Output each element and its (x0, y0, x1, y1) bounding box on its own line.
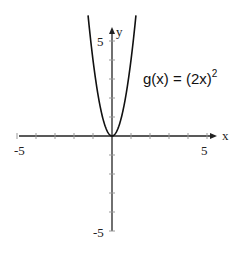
plot-area: x y -5 5 5 -5 g(x) = (2x)2 (0, 0, 239, 253)
graph: x y -5 5 5 -5 g(x) = (2x)2 (0, 0, 239, 253)
x-tick-label-max: 5 (201, 143, 208, 158)
y-tick-label-max: 5 (97, 34, 104, 49)
y-tick-label-min: -5 (93, 225, 104, 240)
x-tick-label-min: -5 (14, 143, 25, 158)
y-axis-label: y (116, 24, 123, 39)
x-axis-label: x (222, 128, 229, 143)
function-label: g(x) = (2x)2 (143, 68, 218, 87)
y-axis-arrow-icon (109, 27, 115, 34)
x-axis-arrow-icon (210, 133, 217, 139)
